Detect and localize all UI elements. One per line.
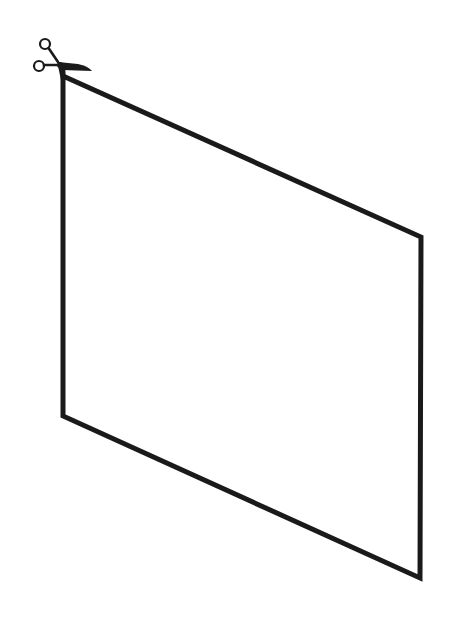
parallelogram-outline [63,76,421,578]
diagram-canvas [0,0,470,630]
scissors-icon [34,39,92,80]
